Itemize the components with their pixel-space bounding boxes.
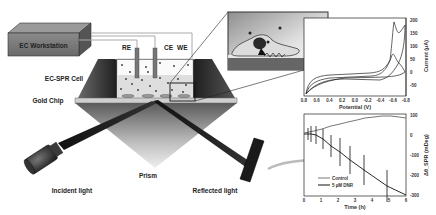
svg-text:0.6: 0.6 [314, 98, 321, 103]
time-y-label: Δθ_SPR (mDeg) [423, 134, 429, 176]
ec-spr-cell-label: EC-SPR Cell [45, 75, 83, 82]
svg-text:0: 0 [303, 198, 306, 203]
svg-text:0.0: 0.0 [352, 98, 359, 103]
svg-text:0.8: 0.8 [301, 98, 308, 103]
svg-text:-0.6: -0.6 [389, 98, 397, 103]
svg-text:5 µM DNR: 5 µM DNR [332, 183, 354, 188]
time-x-label: Time (h) [344, 204, 365, 210]
cv-x-label: Potential (V) [339, 104, 371, 110]
ec-workstation-label: EC Workstation [19, 42, 67, 49]
svg-text:-0.2: -0.2 [364, 98, 372, 103]
time-x-ticks: 0 1 2 3 4 5 6 [303, 198, 408, 203]
cv-y-ticks: 200 150 100 50 0 -50 [410, 18, 418, 88]
svg-text:200: 200 [410, 18, 418, 23]
svg-text:-0.8: -0.8 [402, 98, 410, 103]
svg-text:3: 3 [354, 198, 357, 203]
incident-light-label: Incident light [52, 187, 93, 195]
reflected-light-label: Reflected light [193, 187, 239, 195]
re-label: RE [122, 44, 132, 51]
svg-text:2: 2 [337, 198, 340, 203]
cv-x-ticks: 0.8 0.6 0.4 0.2 0.0 -0.2 -0.4 -0.6 -0.8 [301, 98, 411, 103]
svg-text:100: 100 [410, 113, 418, 118]
svg-text:-300: -300 [410, 193, 420, 198]
svg-text:0.4: 0.4 [326, 98, 333, 103]
svg-text:0.2: 0.2 [339, 98, 346, 103]
svg-text:0: 0 [410, 70, 413, 75]
svg-text:150: 150 [410, 31, 418, 36]
svg-text:5: 5 [388, 198, 391, 203]
counter-electrode [153, 48, 157, 78]
time-y-ticks: 100 0 -100 -200 -300 [410, 113, 420, 198]
cv-chart: 200 150 100 50 0 -50 Current (µA) 0.8 0.… [301, 18, 429, 110]
ec-spr-diagram: EC Workstation RE CE WE [0, 0, 436, 215]
gold-chip-label: Gold Chip [32, 97, 63, 105]
svg-text:100: 100 [410, 44, 418, 49]
svg-text:0: 0 [410, 133, 413, 138]
prism-label: Prism [139, 172, 157, 179]
time-chart: Control 5 µM DNR 100 0 -100 -200 -300 Δθ… [303, 113, 429, 210]
cv-y-label: Current (µA) [423, 40, 429, 72]
svg-text:6: 6 [405, 198, 408, 203]
prism [75, 103, 237, 168]
ec-workstation-box: EC Workstation [8, 23, 91, 56]
ce-label: CE [164, 44, 174, 51]
svg-text:Control: Control [332, 176, 348, 181]
reference-electrode [135, 48, 139, 78]
we-label: WE [177, 44, 188, 51]
svg-text:-200: -200 [410, 173, 420, 178]
svg-text:-100: -100 [410, 153, 420, 158]
svg-text:-0.4: -0.4 [377, 98, 385, 103]
svg-text:-50: -50 [410, 83, 417, 88]
svg-text:50: 50 [410, 57, 416, 62]
svg-text:4: 4 [371, 198, 374, 203]
svg-text:1: 1 [320, 198, 323, 203]
